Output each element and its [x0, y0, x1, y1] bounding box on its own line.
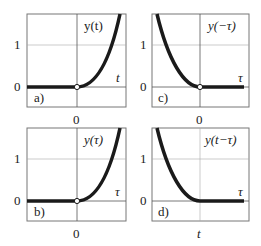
panel-label: d)	[158, 204, 169, 219]
function-label: y(τ)	[82, 132, 103, 147]
function-label: y(t−τ)	[203, 132, 236, 147]
x-tick: 0	[196, 112, 203, 127]
origin-marker	[197, 84, 202, 89]
panel-label: c)	[158, 90, 168, 105]
panel-d: y(t−τ) τ d) t 1 0	[140, 128, 249, 241]
panel-c: y(−τ) τ c) 0 1 0	[140, 14, 249, 127]
convolution-flip-diagram: y(t) t a) 0 1 0 y(−τ) τ c) 0 1 0 y(τ) τ …	[0, 0, 261, 246]
x-axis-label: τ	[238, 184, 244, 199]
curve	[27, 14, 120, 87]
y-tick-1: 1	[140, 37, 147, 52]
function-label: y(−τ)	[206, 18, 236, 33]
x-tick: t	[197, 226, 201, 241]
x-tick: 0	[73, 112, 80, 127]
x-tick: 0	[73, 226, 80, 241]
panel-a: y(t) t a) 0 1 0	[14, 14, 126, 127]
y-tick-0: 0	[140, 193, 147, 208]
y-tick-0: 0	[14, 79, 21, 94]
origin-marker	[74, 84, 79, 89]
x-axis-label: τ	[115, 184, 121, 199]
y-tick-0: 0	[140, 79, 147, 94]
y-tick-0: 0	[14, 193, 21, 208]
origin-marker	[74, 198, 79, 203]
y-tick-1: 1	[140, 151, 147, 166]
x-axis-label: τ	[238, 70, 244, 85]
panel-label: b)	[34, 204, 45, 219]
panel-b: y(τ) τ b) 0 1 0	[14, 128, 126, 241]
y-tick-1: 1	[14, 37, 21, 52]
x-axis-label: t	[116, 70, 120, 85]
curve	[27, 128, 120, 201]
y-tick-1: 1	[14, 151, 21, 166]
function-label: y(t)	[84, 18, 103, 33]
panel-label: a)	[34, 90, 44, 105]
